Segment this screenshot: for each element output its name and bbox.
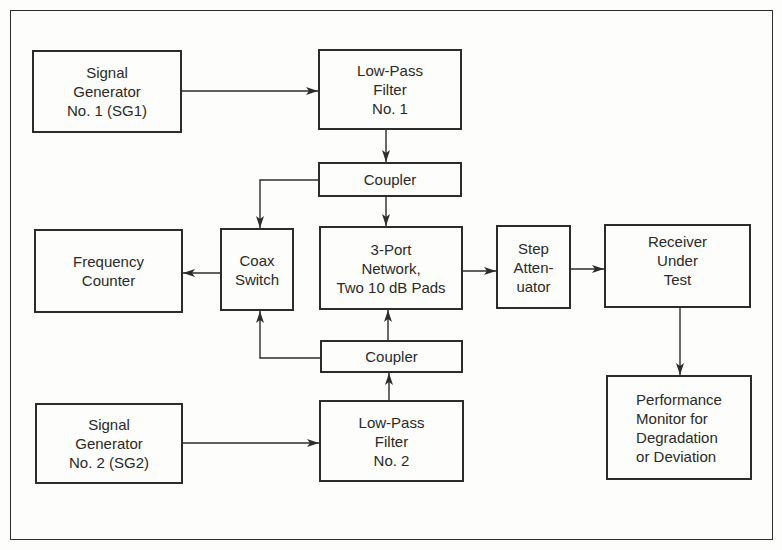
low-pass-filter-2-label: Low-Pass Filter No. 2 xyxy=(359,413,425,470)
coax-switch-block: Coax Switch xyxy=(220,228,294,311)
receiver-under-test-block: Receiver Under Test xyxy=(604,224,751,308)
arrow-coupler-top-to-coax-switch xyxy=(260,180,318,228)
coupler-bottom-label: Coupler xyxy=(365,347,418,366)
coax-switch-label: Coax Switch xyxy=(235,251,279,289)
step-attenuator-block: Step Atten- uator xyxy=(496,225,571,309)
low-pass-filter-1-block: Low-Pass Filter No. 1 xyxy=(318,49,462,130)
performance-monitor-block: Performance Monitor for Degradation or D… xyxy=(606,375,752,480)
step-attenuator-label: Step Atten- uator xyxy=(513,239,553,296)
signal-generator-1-label: Signal Generator No. 1 (SG1) xyxy=(67,63,147,120)
signal-generator-2-block: Signal Generator No. 2 (SG2) xyxy=(35,403,183,484)
coupler-top-block: Coupler xyxy=(318,162,462,197)
three-port-network-block: 3-Port Network, Two 10 dB Pads xyxy=(319,226,463,310)
low-pass-filter-2-block: Low-Pass Filter No. 2 xyxy=(319,400,464,482)
frequency-counter-block: Frequency Counter xyxy=(34,229,183,313)
signal-generator-2-label: Signal Generator No. 2 (SG2) xyxy=(69,415,149,472)
coupler-bottom-block: Coupler xyxy=(320,340,463,373)
frequency-counter-label: Frequency Counter xyxy=(73,252,144,290)
arrow-coupler-bottom-to-coax-switch xyxy=(260,311,320,358)
signal-generator-1-block: Signal Generator No. 1 (SG1) xyxy=(32,50,182,133)
low-pass-filter-1-label: Low-Pass Filter No. 1 xyxy=(357,61,423,118)
three-port-network-label: 3-Port Network, Two 10 dB Pads xyxy=(336,240,445,297)
performance-monitor-label: Performance Monitor for Degradation or D… xyxy=(636,390,722,466)
receiver-under-test-label: Receiver Under Test xyxy=(648,232,707,289)
coupler-top-label: Coupler xyxy=(364,170,417,189)
